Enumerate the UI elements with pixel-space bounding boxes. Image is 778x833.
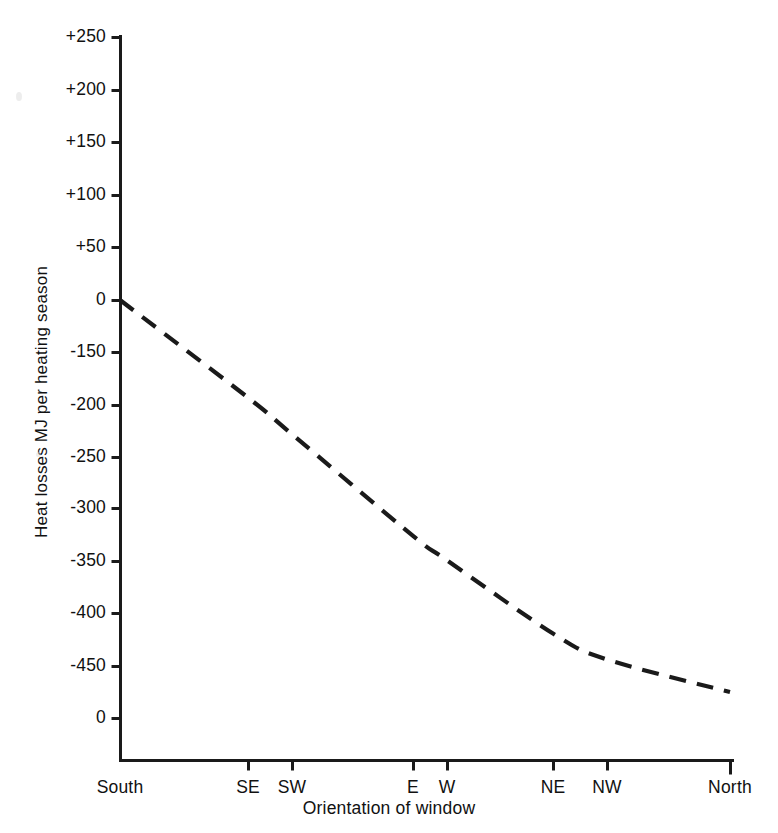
chart-plot-area [0, 0, 778, 833]
x-axis-title: Orientation of window [0, 798, 778, 819]
y-axis-tick-label: +200 [20, 81, 106, 99]
x-axis-tick-label: W [387, 779, 507, 797]
x-axis-tick-label: NW [547, 779, 667, 797]
y-axis-tick-label: +250 [20, 28, 106, 46]
x-axis-tick-label: North [670, 779, 778, 797]
data-series-heat-losses [120, 300, 730, 692]
axis-lines [119, 35, 734, 762]
chart-figure: +250+200+150+100+500-150-200-250-300-350… [0, 0, 778, 833]
y-axis-tick-label: -450 [20, 657, 106, 675]
x-axis-tick-label: South [60, 779, 180, 797]
scan-artifact-speck [36, 452, 41, 457]
y-axis-tick-label: 0 [20, 709, 106, 727]
y-axis-title: Heat losses MJ per heating season [32, 192, 52, 612]
x-axis-tick-label: SW [232, 779, 352, 797]
y-axis-tick-label: +150 [20, 133, 106, 151]
scan-artifact-speck [16, 92, 22, 101]
